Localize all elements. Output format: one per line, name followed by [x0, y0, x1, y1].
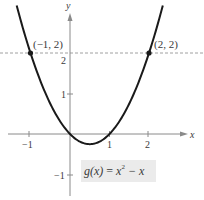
- x-axis-arrow-icon: [180, 132, 188, 137]
- point-label-left: (−1, 2): [33, 38, 63, 51]
- x-tick-label-2: 2: [145, 139, 150, 150]
- point-label-right: (2, 2): [154, 38, 178, 51]
- x-axis-label: x: [189, 129, 195, 140]
- graph-figure: y x −1 1 2 1 2 −1 (−1, 2) (2, 2) g(x) = …: [0, 0, 204, 200]
- function-name: g(x): [84, 164, 103, 178]
- y-tick-label-neg1: −1: [54, 170, 65, 181]
- point-2-2: [146, 50, 151, 55]
- y-tick-label-2: 2: [61, 55, 66, 66]
- x-tick-label-1: 1: [107, 139, 112, 150]
- y-axis-label: y: [65, 0, 71, 11]
- y-axis-arrow-icon: [68, 13, 73, 21]
- function-rest: − x: [125, 164, 144, 178]
- y-tick-label-1: 1: [61, 89, 66, 100]
- function-label: g(x) = x2 − x: [84, 163, 144, 179]
- x-tick-label-neg1: −1: [22, 139, 33, 150]
- point-neg1-2: [28, 50, 33, 55]
- parabola-curve: [17, 6, 163, 145]
- function-equals: =: [103, 164, 116, 178]
